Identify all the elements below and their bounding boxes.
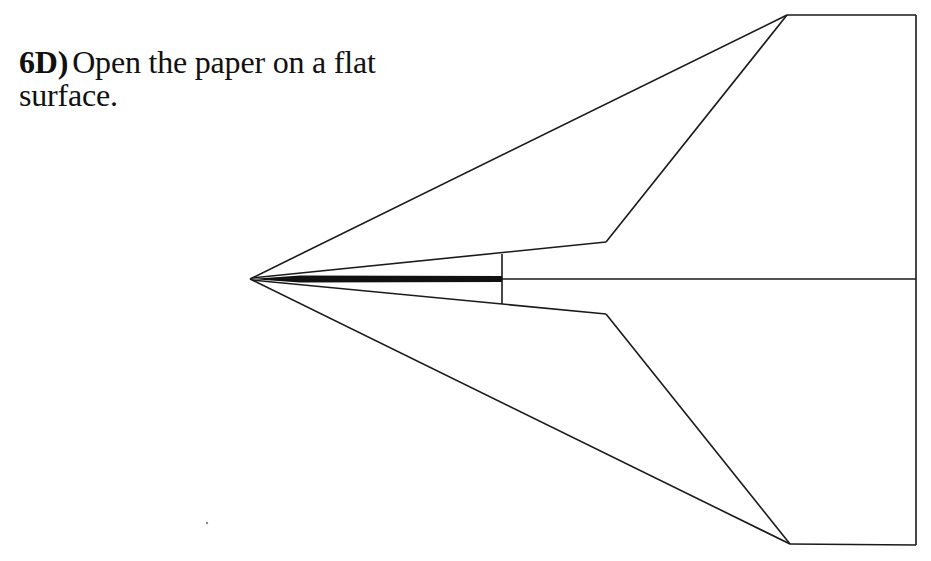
- inner-bottom-fold: [252, 280, 606, 314]
- center-fold-bar: [252, 276, 502, 283]
- outer-bottom-edge: [250, 279, 790, 544]
- paper-airplane-diagram: [0, 0, 931, 561]
- paper-bottom-edge: [790, 544, 916, 545]
- paper-speck: [206, 522, 208, 524]
- inner-top-fold-diagonal: [606, 15, 787, 242]
- inner-top-fold: [252, 242, 606, 278]
- inner-bottom-fold-diagonal: [606, 314, 790, 544]
- outer-top-edge: [250, 15, 787, 279]
